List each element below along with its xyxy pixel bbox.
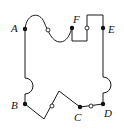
point-E-dot (101, 26, 105, 30)
point-C-dot (78, 105, 82, 109)
open-circle-icon (50, 104, 54, 108)
open-circle-icon (85, 26, 89, 30)
point-A-dot (23, 27, 27, 31)
label-C: C (74, 111, 82, 123)
closed-path-diagram: A F E B C D (0, 0, 124, 129)
point-F-dot (70, 26, 74, 30)
open-circle-icon (89, 104, 93, 108)
bump-path-E-D (103, 28, 111, 104)
label-A: A (10, 22, 18, 34)
point-B-dot (23, 102, 27, 106)
label-B: B (11, 99, 18, 111)
point-D-dot (101, 102, 105, 106)
bump-path-B-A (25, 29, 33, 104)
label-F: F (72, 13, 80, 25)
label-D: D (103, 107, 112, 119)
open-circle-icon (46, 28, 50, 32)
label-E: E (107, 23, 115, 35)
